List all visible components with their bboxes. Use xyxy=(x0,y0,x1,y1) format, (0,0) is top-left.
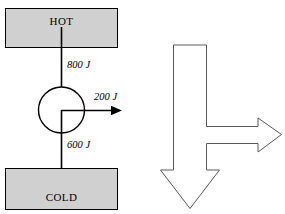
cold-reservoir-box xyxy=(6,169,118,210)
cold-reservoir-label: COLD xyxy=(46,191,78,203)
cold-reservoir: COLD xyxy=(6,169,118,210)
work-output-label: 200 J xyxy=(94,91,118,102)
diagram-root: HOT 800 J 200 J 600 J xyxy=(0,0,285,214)
heat-engine-schematic: HOT 800 J 200 J 600 J xyxy=(6,9,123,210)
work-output-arrowhead xyxy=(111,106,122,115)
heat-input-label: 800 J xyxy=(67,59,91,70)
energy-flow-outline-arrow xyxy=(161,45,282,209)
outline-arrow-shape xyxy=(161,45,282,209)
energy-flow-diagram: HOT 800 J 200 J 600 J xyxy=(0,0,285,214)
heat-rejected-label: 600 J xyxy=(67,139,91,150)
hot-reservoir-label: HOT xyxy=(50,15,74,27)
